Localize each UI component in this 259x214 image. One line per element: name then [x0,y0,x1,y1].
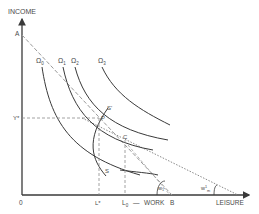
origin-label: 0 [19,199,23,206]
curve-omega-1-label: Ω1 [58,57,66,66]
budget-line-AB [22,35,172,195]
work-label: WORK [144,199,165,206]
x-axis-label: LEISURE [216,199,244,206]
work-arrow: — [133,199,140,206]
point-B-label: B [170,199,174,206]
point-P-label: P [101,115,105,121]
angle-wm-arc [214,185,217,195]
curve-omega-0-label: Ω0 [36,57,44,66]
indifference-curve-3 [102,67,170,125]
angle-wm-label: w1m [200,185,210,193]
indifference-curve-2 [75,67,168,140]
y-axis-label: INCOME [8,8,36,15]
indifference-curve-0 [42,67,140,175]
l0-label: L0 [122,199,129,208]
point-C-label: C [123,134,128,140]
point-S-prime-label: S' [107,105,112,111]
l-star-label: L* [95,200,101,206]
labor-leisure-diagram: INCOME LEISURE 0 A Y* L* L0 — WORK B P S… [0,0,259,214]
point-S-label: S [105,168,109,174]
point-A-label: A [15,30,20,37]
curve-omega-2-label: Ω2 [71,57,79,66]
y-star-label: Y* [13,115,20,121]
curve-omega-3-label: Ω3 [98,57,106,66]
